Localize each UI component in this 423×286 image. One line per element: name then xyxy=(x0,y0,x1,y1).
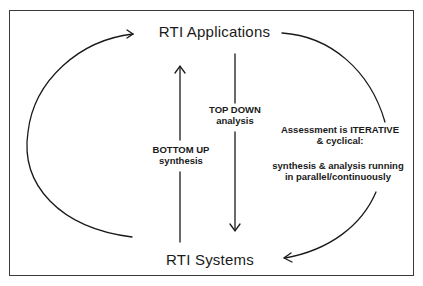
node-rti-systems: RTI Systems xyxy=(160,251,260,268)
right-cycle-arc-lower xyxy=(285,192,376,258)
note-line4: in parallel/continuously xyxy=(268,172,408,183)
note-parallel: synthesis & analysis running in parallel… xyxy=(268,161,408,183)
edge-label-bottom-up-line2: synthesis xyxy=(145,156,217,167)
edge-label-bottom-up: BOTTOM UP synthesis xyxy=(145,145,217,167)
note-line2: & cyclical: xyxy=(278,136,402,147)
left-cycle-arc xyxy=(27,34,133,237)
right-cycle-arc-upper xyxy=(282,33,385,122)
note-iterative: Assessment is ITERATIVE & cyclical: xyxy=(278,125,402,147)
edge-label-top-down-line2: analysis xyxy=(200,116,270,127)
node-rti-applications: RTI Applications xyxy=(157,23,272,40)
edge-label-top-down: TOP DOWN analysis xyxy=(200,105,270,127)
